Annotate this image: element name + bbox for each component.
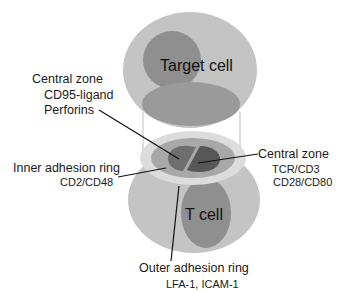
central-zone-right-title: Central zone	[258, 148, 329, 161]
central-zone-right-line2: CD28/CD80	[273, 177, 332, 188]
outer-ring-title: Outer adhesion ring	[139, 262, 249, 275]
target-cell-label: Target cell	[160, 57, 233, 75]
inner-adhesion-ring	[151, 138, 235, 178]
outer-ring-line1: LFA-1, ICAM-1	[166, 279, 239, 290]
t-cell-label: T cell	[185, 206, 223, 224]
central-zone-left-line2: Perforins	[44, 104, 94, 117]
central-zone-left-line1: CD95-ligand	[44, 89, 113, 102]
central-zone-left-title: Central zone	[32, 73, 103, 86]
inner-ring-title: Inner adhesion ring	[13, 162, 120, 175]
central-zone-right-line1: TCR/CD3	[272, 164, 320, 175]
inner-ring-line1: CD2/CD48	[60, 177, 113, 188]
target-contact-patch	[142, 82, 240, 126]
